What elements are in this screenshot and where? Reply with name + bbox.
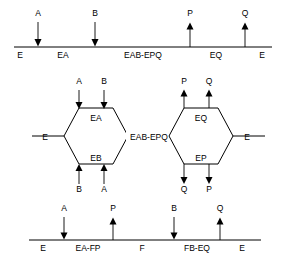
bottom-arrow-a-label: A (61, 203, 67, 213)
bottom-arrow-q-label: Q (217, 203, 224, 213)
mid-left-arrow-b-top: B (101, 76, 108, 109)
right-hexagon-top-label: EQ (195, 113, 208, 123)
right-hexagon-bottom-label: EP (195, 153, 207, 163)
mid-left-arrow-a-top-label: A (76, 76, 82, 86)
bottom-arrow-q: Q (217, 203, 224, 240)
top-segment-label-2: EA (57, 50, 69, 60)
mid-right-arrow-p-bottom-label: P (206, 184, 212, 194)
bridge-label: EAB-EPQ (130, 132, 168, 142)
mid-left-arrow-a-top: A (76, 76, 83, 109)
left-hexagon-top-label: EA (90, 113, 102, 123)
mid-right-arrow-q-top: Q (206, 76, 213, 108)
diagram-root: A B P Q E EA EAB-EPQ (0, 0, 285, 267)
top-segment-label-5: E (259, 50, 265, 60)
left-tail-label-e: E (42, 132, 48, 142)
mid-left-arrow-a-bottom-label: A (101, 184, 107, 194)
top-arrow-p-label: P (187, 8, 193, 18)
mid-left-arrow-b-bottom: B (76, 164, 83, 194)
bottom-segment-label-2: EA-FP (75, 243, 100, 253)
mid-right-arrow-p-top: P (181, 76, 188, 108)
mid-left-arrow-b-bottom-label: B (76, 184, 82, 194)
two-ring-structure-panel: E EA EB EAB-EPQ E EQ EP A (32, 76, 265, 194)
mid-left-arrow-a-bottom: A (101, 164, 108, 194)
bottom-arrow-b-label: B (171, 203, 177, 213)
mid-right-arrow-p-bottom: P (206, 164, 213, 194)
arrowhead-down-icon (92, 39, 99, 47)
top-arrow-a-label: A (35, 8, 41, 18)
arrowhead-down-icon (35, 39, 42, 47)
bottom-axis-panel: A P B Q E EA-FP F (29, 203, 261, 253)
right-tail-label-e: E (244, 132, 250, 142)
top-arrow-q-label: Q (242, 8, 249, 18)
arrowhead-up-icon (217, 218, 224, 225)
arrowhead-down-icon (61, 233, 68, 240)
arrowhead-down-icon (206, 177, 213, 184)
arrowhead-up-icon (206, 90, 213, 97)
top-segment-label-4: EQ (210, 50, 223, 60)
arrowhead-up-icon (110, 218, 117, 225)
arrowhead-up-icon (187, 23, 194, 30)
arrowhead-down-icon (181, 177, 188, 184)
arrowhead-up-icon (181, 90, 188, 97)
arrowhead-up-icon (242, 23, 249, 30)
mid-left-arrow-b-top-label: B (101, 76, 107, 86)
bottom-segment-label-5: E (239, 243, 245, 253)
mid-right-arrow-q-bottom-label: Q (181, 184, 188, 194)
bottom-arrow-b: B (171, 203, 178, 240)
top-axis-panel: A B P Q E EA EAB-EPQ (14, 8, 272, 60)
top-arrow-a: A (35, 8, 42, 47)
mid-right-arrow-p-top-label: P (181, 76, 187, 86)
top-arrow-b-label: B (92, 8, 98, 18)
top-arrow-q: Q (242, 8, 249, 47)
mid-right-arrow-q-top-label: Q (206, 76, 213, 86)
bottom-segment-label-1: E (40, 243, 46, 253)
left-hexagon-bottom-label: EB (90, 153, 102, 163)
top-arrow-b: B (92, 8, 99, 47)
arrowhead-up-icon (76, 164, 83, 171)
arrowhead-up-icon (101, 164, 108, 171)
top-segment-label-1: E (17, 50, 23, 60)
bottom-arrow-a: A (61, 203, 68, 240)
kinetic-mechanism-diagram: A B P Q E EA EAB-EPQ (0, 0, 285, 267)
top-segment-label-3: EAB-EPQ (124, 50, 162, 60)
bottom-arrow-p: P (110, 203, 117, 240)
bottom-segment-label-3: F (139, 243, 144, 253)
bottom-arrow-p-label: P (110, 203, 116, 213)
bottom-segment-label-4: FB-EQ (184, 243, 210, 253)
mid-right-arrow-q-bottom: Q (181, 164, 188, 194)
top-arrow-p: P (187, 8, 194, 47)
arrowhead-down-icon (171, 233, 178, 240)
